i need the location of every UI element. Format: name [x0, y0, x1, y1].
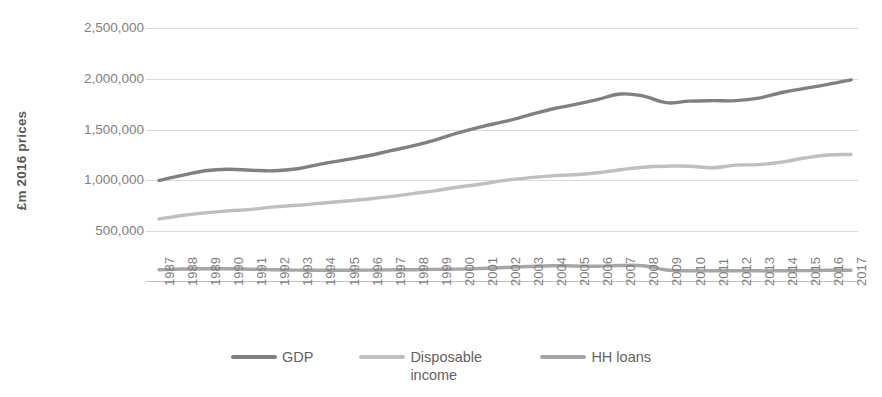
x-tick-label: 1996	[360, 286, 374, 338]
x-tick-label: 2008	[636, 286, 650, 338]
x-tick-label: 2007	[613, 286, 627, 338]
legend-item-gdp[interactable]: GDP	[231, 348, 313, 366]
x-tick-label-text: 2017	[855, 257, 869, 286]
x-tick-label-text: 2012	[740, 257, 754, 286]
x-tick-label-text: 1989	[209, 257, 223, 286]
line-chart: £m 2016 prices 2,500,0002,000,0001,500,0…	[0, 0, 882, 397]
x-axis-tick-labels: 1987198819891990199119921993199419951996…	[152, 286, 858, 342]
x-tick-label-text: 1996	[371, 257, 385, 286]
series-line-disposable-income	[159, 154, 851, 219]
x-tick-label-text: 2000	[463, 257, 477, 286]
x-tick-label-text: 1994	[324, 257, 338, 286]
x-tick-label: 1998	[406, 286, 420, 338]
x-tick-label: 1994	[313, 286, 327, 338]
x-tick-label-text: 2011	[717, 258, 731, 286]
x-tick-label-text: 1995	[348, 257, 362, 286]
x-tick-label-text: 2015	[809, 257, 823, 286]
x-tick-label-text: 1992	[278, 257, 292, 286]
x-tick-label: 2001	[475, 286, 489, 338]
x-tick-label: 1991	[244, 286, 258, 338]
x-tick-label: 1989	[198, 286, 212, 338]
legend-swatch-icon	[359, 355, 405, 359]
x-tick-label: 2015	[798, 286, 812, 338]
x-tick-label-text: 1988	[186, 257, 200, 286]
x-tick-label-text: 2002	[509, 257, 523, 286]
x-tick-label: 1992	[267, 286, 281, 338]
series-lines	[152, 28, 858, 282]
x-tick-label: 2010	[683, 286, 697, 338]
x-tick-label: 2013	[752, 286, 766, 338]
y-axis-title-text: £m 2016 prices	[15, 110, 30, 210]
x-tick-label: 1988	[175, 286, 189, 338]
x-tick-label: 2009	[659, 286, 673, 338]
legend-item-disposable-income[interactable]: Disposable income	[359, 348, 494, 384]
x-tick-label-text: 2001	[486, 257, 500, 286]
x-tick-label-text: 2016	[832, 257, 846, 286]
legend-item-hh-loans[interactable]: HH loans	[540, 348, 651, 366]
x-tick-label: 2004	[544, 286, 558, 338]
y-tick-label: 1,000,000	[44, 173, 144, 187]
y-axis-title: £m 2016 prices	[10, 80, 34, 240]
x-tick-label: 2014	[775, 286, 789, 338]
x-tick-label-text: 1999	[440, 257, 454, 286]
x-tick-label: 2011	[706, 286, 720, 338]
x-tick-label: 2000	[452, 286, 466, 338]
x-tick-label: 1999	[429, 286, 443, 338]
legend-label: HH loans	[591, 348, 651, 366]
x-tick-label-text: 2014	[786, 257, 800, 286]
x-tick-label-text: 2007	[624, 257, 638, 286]
x-tick-label-text: 1993	[301, 257, 315, 286]
x-tick-label-text: 2006	[601, 257, 615, 286]
chart-legend: GDPDisposable incomeHH loans	[0, 348, 882, 384]
x-tick-label-text: 2004	[555, 257, 569, 286]
x-tick-label: 2017	[844, 286, 858, 338]
x-tick-label-text: 2009	[670, 257, 684, 286]
x-tick-label-text: 2008	[647, 257, 661, 286]
x-tick-label-text: 2010	[694, 257, 708, 286]
x-tick-label-text: 1997	[394, 257, 408, 286]
x-tick-label: 1987	[152, 286, 166, 338]
x-tick-label: 2016	[821, 286, 835, 338]
y-axis-tick-labels: 2,500,0002,000,0001,500,0001,000,000500,…	[40, 0, 144, 300]
x-tick-label-text: 1987	[163, 257, 177, 286]
legend-label: Disposable income	[410, 348, 494, 384]
x-tick-label: 1990	[221, 286, 235, 338]
legend-swatch-icon	[231, 355, 277, 359]
x-tick-label-text: 1991	[255, 257, 269, 286]
plot-area	[152, 28, 858, 282]
x-tick-label-text: 2003	[532, 257, 546, 286]
x-tick-label: 2003	[521, 286, 535, 338]
x-tick-label: 2005	[567, 286, 581, 338]
x-tick-label-text: 1990	[232, 257, 246, 286]
x-tick-label: 1995	[337, 286, 351, 338]
legend-swatch-icon	[540, 355, 586, 359]
x-tick-label: 1993	[290, 286, 304, 338]
y-tick-label: 2,500,000	[44, 21, 144, 35]
y-tick-label: 2,000,000	[44, 72, 144, 86]
x-tick-label: 2006	[590, 286, 604, 338]
x-tick-label: 2002	[498, 286, 512, 338]
x-tick-label: 1997	[383, 286, 397, 338]
y-tick-label: 1,500,000	[44, 123, 144, 137]
x-tick-label-text: 2013	[763, 257, 777, 286]
y-tick-label: 500,000	[44, 224, 144, 238]
x-tick-label-text: 1998	[417, 257, 431, 286]
x-tick-label-text: 2005	[578, 257, 592, 286]
x-tick-label: 2012	[729, 286, 743, 338]
legend-label: GDP	[282, 348, 313, 366]
